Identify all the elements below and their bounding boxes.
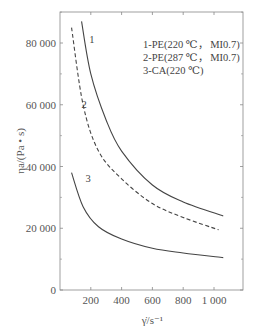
chart: 020 00040 00060 00080 0002004006008001 0… bbox=[0, 0, 256, 330]
legend-entry: 3-CA(220 ℃) bbox=[143, 65, 204, 77]
y-tick-label: 40 000 bbox=[26, 161, 57, 173]
y-axis-label: ηa/(Pa • s) bbox=[14, 128, 27, 174]
legend-entry: 2-PE(287 ℃， MI0.7) bbox=[143, 52, 240, 64]
x-tick-label: 1 000 bbox=[202, 294, 227, 306]
x-tick-label: 600 bbox=[144, 294, 161, 306]
y-tick-label: 60 000 bbox=[26, 99, 57, 111]
y-tick-label: 20 000 bbox=[26, 222, 57, 234]
curve-label: 2 bbox=[82, 99, 87, 110]
y-tick-label: 80 000 bbox=[26, 37, 57, 49]
curve-1 bbox=[82, 21, 224, 216]
curve-3 bbox=[72, 173, 224, 258]
y-tick-label: 0 bbox=[51, 284, 57, 296]
curve-label: 3 bbox=[85, 173, 90, 184]
x-axis-label: γ̇/s⁻¹ bbox=[141, 314, 163, 326]
x-tick-label: 800 bbox=[175, 294, 192, 306]
x-tick-label: 200 bbox=[83, 294, 100, 306]
x-tick-label: 400 bbox=[113, 294, 130, 306]
curve-label: 1 bbox=[89, 34, 94, 45]
legend-entry: 1-PE(220 ℃， MI0.7) bbox=[143, 39, 240, 51]
